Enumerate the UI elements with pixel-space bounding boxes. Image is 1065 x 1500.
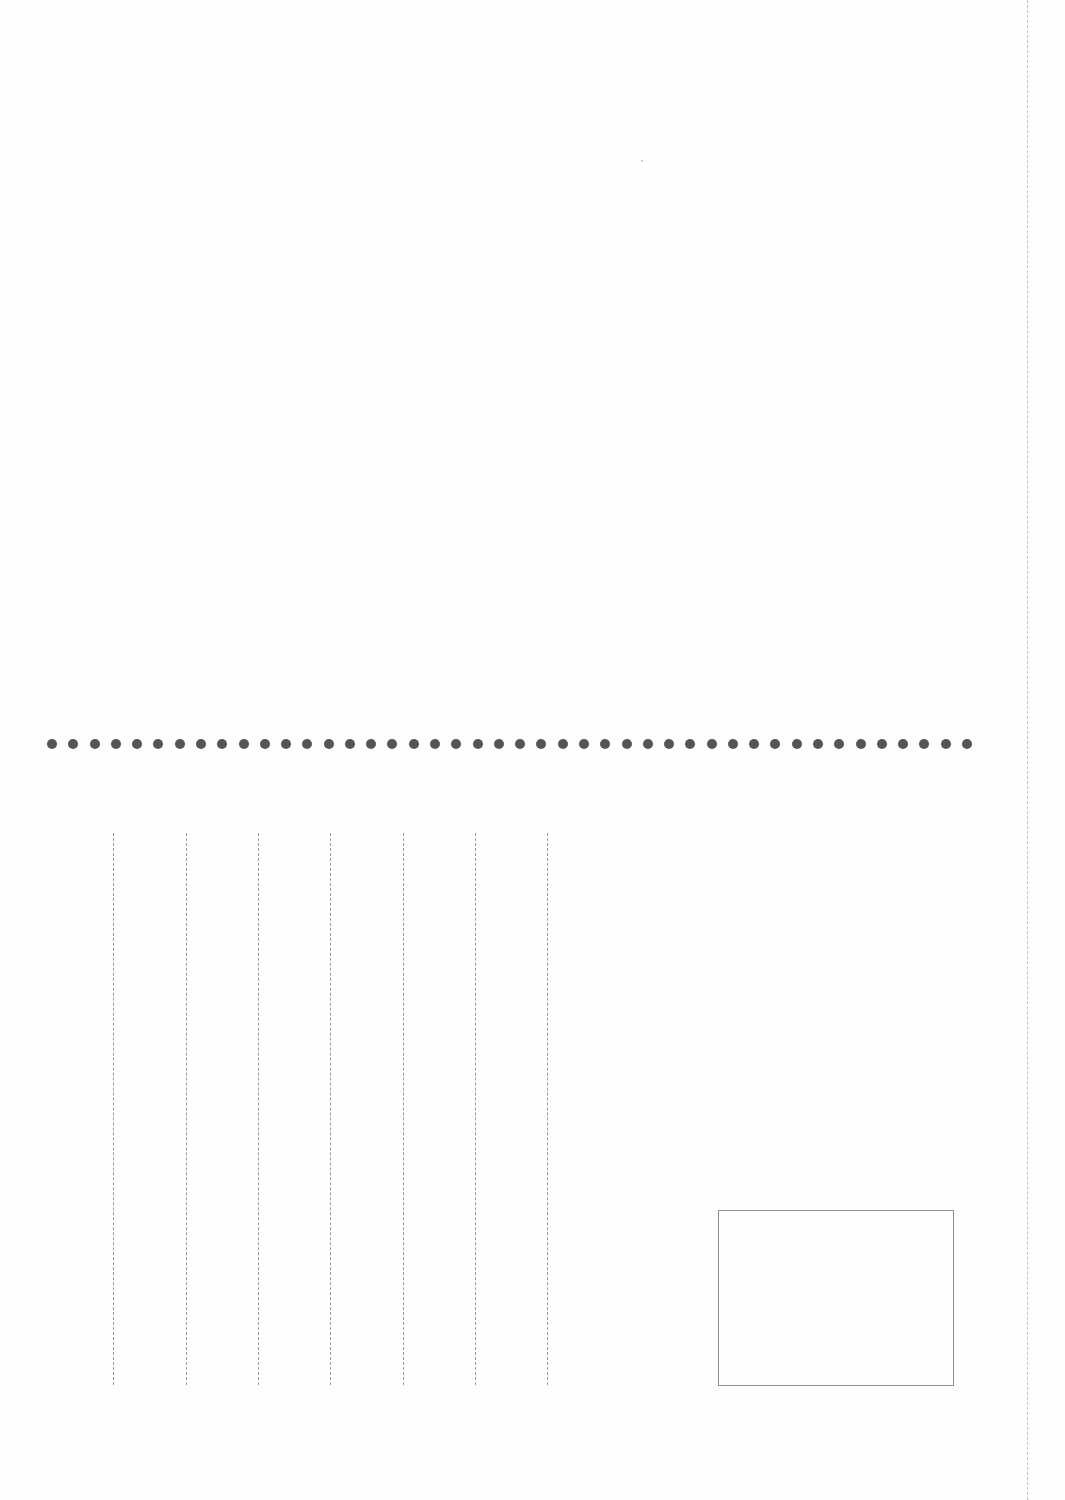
separator-dot (792, 739, 802, 749)
separator-dot (515, 739, 525, 749)
separator-dot (898, 739, 908, 749)
separator-dot (47, 739, 57, 749)
writing-line (258, 833, 259, 1385)
separator-dot (217, 739, 227, 749)
separator-dot (302, 739, 312, 749)
separator-dot (877, 739, 887, 749)
separator-dot (813, 739, 823, 749)
cut-line (1027, 0, 1028, 1500)
separator-dot (664, 739, 674, 749)
writing-line (475, 833, 476, 1385)
separator-dot (579, 739, 589, 749)
separator-dot (345, 739, 355, 749)
writing-line (403, 833, 404, 1385)
separator-dot (281, 739, 291, 749)
separator-dot (260, 739, 270, 749)
writing-line (330, 833, 331, 1385)
separator-dot (770, 739, 780, 749)
separator-dot (919, 739, 929, 749)
separator-dot (132, 739, 142, 749)
separator-dot (707, 739, 717, 749)
separator-dot (558, 739, 568, 749)
separator-dot (473, 739, 483, 749)
separator-dot (153, 739, 163, 749)
separator-dot (324, 739, 334, 749)
separator-dot (536, 739, 546, 749)
writing-line (186, 833, 187, 1385)
separator-dot (494, 739, 504, 749)
separator-dot (643, 739, 653, 749)
separator-dot (749, 739, 759, 749)
separator-dot (68, 739, 78, 749)
separator-dot (387, 739, 397, 749)
separator-dot (941, 739, 951, 749)
separator-dot (111, 739, 121, 749)
separator-dot (175, 739, 185, 749)
paper-speck (641, 160, 643, 162)
separator-dot (962, 739, 972, 749)
separator-dot (856, 739, 866, 749)
writing-line (547, 833, 548, 1385)
separator-dot (239, 739, 249, 749)
separator-dot (451, 739, 461, 749)
separator-dot (685, 739, 695, 749)
separator-dot (196, 739, 206, 749)
separator-dot (834, 739, 844, 749)
separator-dot (430, 739, 440, 749)
stamp-box (718, 1210, 954, 1386)
separator-dot (366, 739, 376, 749)
separator-dot (622, 739, 632, 749)
separator-dot (90, 739, 100, 749)
separator-dot (409, 739, 419, 749)
separator-dot (600, 739, 610, 749)
writing-line (113, 833, 114, 1385)
separator-dot (728, 739, 738, 749)
